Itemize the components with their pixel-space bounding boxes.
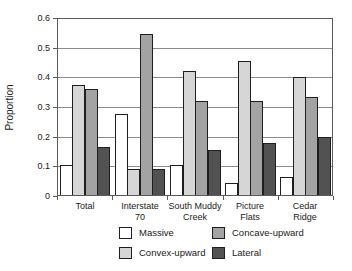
bar-concave-upward <box>305 97 318 196</box>
bar-concave-upward <box>250 101 263 196</box>
legend-swatch-massive-icon <box>119 227 132 239</box>
y-tick-mark <box>53 137 57 138</box>
legend-label: Convex-upward <box>139 247 206 259</box>
y-tick-mark <box>53 18 57 19</box>
y-tick-label: 0.6 <box>20 14 50 23</box>
bar-chart: Proportion 0.60.50.40.30.20.10TotalInter… <box>0 0 352 271</box>
bar-massive <box>225 183 238 196</box>
y-tick-label: 0.1 <box>20 162 50 171</box>
x-tick-mark <box>167 196 168 200</box>
bar-lateral <box>318 137 331 196</box>
legend-swatch-concave-upward-icon <box>212 227 225 239</box>
y-tick-mark <box>53 107 57 108</box>
y-tick-label: 0.2 <box>20 133 50 142</box>
x-tick-mark <box>278 196 279 200</box>
legend-label: Massive <box>139 227 174 239</box>
y-tick-mark <box>53 77 57 78</box>
legend-label: Lateral <box>232 247 261 259</box>
legend-swatch-lateral-icon <box>212 247 225 259</box>
x-tick-mark <box>57 196 58 200</box>
bar-lateral <box>152 169 165 196</box>
y-tick-mark <box>53 48 57 49</box>
x-tick-mark <box>112 196 113 200</box>
bar-convex-upward <box>72 85 85 196</box>
y-tick-label: 0 <box>20 192 50 201</box>
legend-entry-convex-upward: Convex-upward <box>119 247 206 259</box>
legend-entry-massive: Massive <box>119 227 174 239</box>
legend-entry-lateral: Lateral <box>212 247 261 259</box>
bar-massive <box>280 177 293 196</box>
bar-lateral <box>263 143 276 196</box>
bar-convex-upward <box>127 169 140 196</box>
y-axis-title: Proportion <box>4 68 15 148</box>
bar-lateral <box>208 150 221 196</box>
legend-entry-concave-upward: Concave-upward <box>212 227 304 239</box>
bar-lateral <box>97 147 110 196</box>
x-tick-mark <box>333 196 334 200</box>
legend-swatch-convex-upward-icon <box>119 247 132 259</box>
y-gridline <box>57 18 333 19</box>
y-tick-mark <box>53 166 57 167</box>
y-tick-label: 0.3 <box>20 103 50 112</box>
legend-label: Concave-upward <box>232 227 304 239</box>
x-tick-mark <box>223 196 224 200</box>
bar-massive <box>170 165 183 196</box>
bar-concave-upward <box>195 101 208 196</box>
x-category-label: Cedar Ridge <box>270 201 340 223</box>
y-tick-label: 0.5 <box>20 44 50 53</box>
y-tick-label: 0.4 <box>20 73 50 82</box>
y-gridline <box>57 48 333 49</box>
